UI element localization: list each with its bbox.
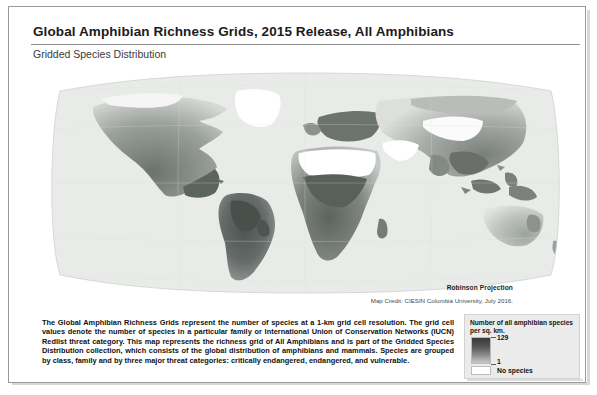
legend-tick-min: [491, 364, 496, 365]
legend-title: Number of all amphibian species per sq. …: [470, 319, 578, 335]
projection-label: Robinson Projection: [447, 284, 513, 291]
legend-max-value: 129: [497, 334, 508, 341]
page-subtitle: Gridded Species Distribution: [33, 48, 166, 60]
legend-drop-shadow: [467, 379, 583, 381]
legend-color-ramp: [471, 337, 491, 364]
map-credit: Map Credit: CIESIN Columbia University, …: [371, 297, 513, 304]
legend-min-value: 1: [497, 358, 501, 365]
map-legend: Number of all amphibian species per sq. …: [464, 314, 580, 379]
description-paragraph: The Global Amphibian Richness Grids repr…: [42, 318, 454, 365]
legend-tick-max: [491, 337, 496, 338]
world-map-graphic: [31, 69, 580, 297]
legend-no-species-swatch: [471, 366, 491, 375]
page-title: Global Amphibian Richness Grids, 2015 Re…: [33, 24, 454, 39]
sahara-no-species: [298, 149, 375, 178]
map-document-page: Global Amphibian Richness Grids, 2015 Re…: [8, 6, 586, 383]
title-divider: [31, 44, 580, 45]
europe-landmass: [317, 111, 380, 142]
legend-no-species-label: No species: [497, 367, 533, 374]
page-drop-shadow-right: [587, 10, 590, 385]
robinson-projection-map: [31, 69, 580, 297]
